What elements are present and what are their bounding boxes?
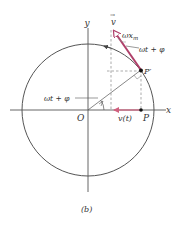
right-angle-mark	[134, 75, 141, 79]
point-p-prime-label: P′	[143, 67, 151, 76]
figure-caption: (b)	[81, 205, 92, 214]
point-p-label: P	[142, 113, 150, 123]
radius-line	[88, 70, 141, 110]
velocity-vector-arrow-glyph: →	[110, 11, 115, 18]
angle-tip-label: ωt + φ	[139, 45, 165, 54]
angle-tip-leader	[126, 46, 139, 48]
velocity-magnitude-main: ωx	[122, 31, 134, 40]
point-p-prime	[139, 69, 143, 73]
velocity-vector-label: v	[111, 17, 116, 27]
projected-velocity-label: v(t)	[118, 114, 132, 123]
velocity-magnitude-sub: m	[133, 35, 138, 41]
angle-origin-label: ωt + φ	[44, 94, 70, 103]
point-p	[139, 108, 143, 112]
y-axis-label: y	[84, 18, 91, 28]
x-axis-label: x	[166, 105, 171, 115]
velocity-magnitude-label: ωxm	[122, 31, 138, 41]
origin-label: O	[77, 113, 85, 123]
reference-circle-diagram: y x O P P′ v → ωxm ωt + φ ωt + φ v(t) (b…	[0, 0, 183, 234]
